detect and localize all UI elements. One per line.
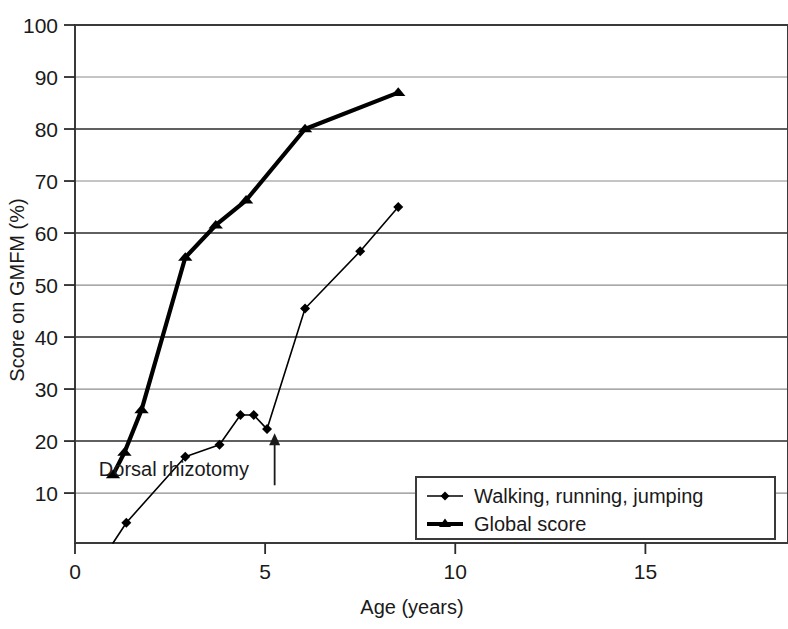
series-global-score: [106, 87, 406, 478]
y-tick-label-30: 30: [35, 378, 58, 401]
y-tick-label-60: 60: [35, 222, 58, 245]
y-tick-label-100: 100: [23, 14, 58, 37]
y-tick-label-40: 40: [35, 326, 58, 349]
gmfm-score-line-chart: 102030405060708090100 051015 Score on GM…: [0, 0, 788, 629]
y-axis-ticks: 102030405060708090100: [23, 14, 75, 505]
data-point-triangle: [117, 447, 131, 456]
legend[interactable]: Walking, running, jumping Global score: [416, 477, 775, 539]
x-axis-ticks: 051015: [69, 543, 657, 583]
y-tick-label-90: 90: [35, 66, 58, 89]
x-tick-label-5: 5: [259, 560, 271, 583]
y-tick-label-10: 10: [35, 482, 58, 505]
x-axis-title: Age (years): [360, 596, 463, 618]
y-tick-label-50: 50: [35, 274, 58, 297]
annotation-label-dorsal-rhizotomy: Dorsal rhizotomy: [99, 458, 249, 480]
chart-figure: 102030405060708090100 051015 Score on GM…: [0, 0, 788, 629]
x-tick-label-10: 10: [444, 560, 467, 583]
legend-label-global: Global score: [474, 513, 586, 535]
series-walking-running-jumping: [113, 202, 403, 543]
data-point-diamond: [235, 410, 245, 420]
x-tick-label-15: 15: [634, 560, 657, 583]
y-tick-label-70: 70: [35, 170, 58, 193]
data-point-triangle: [391, 87, 405, 96]
y-tick-label-80: 80: [35, 118, 58, 141]
annotation-arrow-head: [269, 433, 280, 445]
y-tick-label-20: 20: [35, 430, 58, 453]
data-point-triangle: [134, 405, 148, 414]
gridlines: [75, 77, 788, 493]
x-tick-label-0: 0: [69, 560, 81, 583]
y-axis-title: Score on GMFM (%): [6, 198, 28, 381]
legend-label-walking: Walking, running, jumping: [474, 485, 703, 507]
